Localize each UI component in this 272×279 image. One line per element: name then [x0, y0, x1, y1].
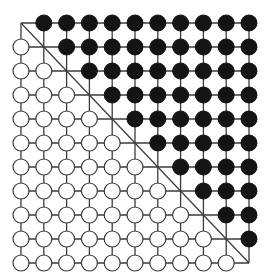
white-node: [13, 183, 29, 199]
black-node: [173, 63, 189, 79]
black-node: [218, 207, 234, 223]
black-node: [150, 63, 166, 79]
white-node: [104, 183, 120, 199]
black-node: [173, 111, 189, 127]
black-node: [104, 63, 120, 79]
black-node: [241, 111, 257, 127]
white-node: [13, 159, 29, 175]
black-node: [218, 159, 234, 175]
white-node: [150, 183, 166, 199]
black-node: [195, 135, 211, 151]
black-node: [241, 231, 257, 247]
white-node: [104, 255, 120, 271]
white-node: [127, 183, 143, 199]
black-node: [241, 159, 257, 175]
white-node: [13, 63, 29, 79]
black-node: [218, 15, 234, 31]
white-node: [81, 135, 97, 151]
black-node: [241, 63, 257, 79]
black-node: [81, 39, 97, 55]
white-node: [13, 87, 29, 103]
white-node: [36, 87, 52, 103]
white-node: [195, 255, 211, 271]
white-node: [127, 207, 143, 223]
black-node: [218, 87, 234, 103]
black-node: [150, 135, 166, 151]
black-node: [241, 87, 257, 103]
white-node: [13, 255, 29, 271]
black-node: [241, 15, 257, 31]
black-node: [59, 15, 75, 31]
white-node: [59, 207, 75, 223]
black-node: [127, 63, 143, 79]
white-node: [36, 159, 52, 175]
black-node: [150, 87, 166, 103]
black-node: [81, 63, 97, 79]
black-node: [173, 87, 189, 103]
black-node: [218, 39, 234, 55]
black-node: [81, 15, 97, 31]
white-node: [150, 255, 166, 271]
black-node: [195, 111, 211, 127]
white-node: [81, 255, 97, 271]
black-node: [104, 39, 120, 55]
black-node: [127, 15, 143, 31]
black-node: [104, 15, 120, 31]
black-node: [195, 15, 211, 31]
white-node: [36, 207, 52, 223]
black-node: [241, 207, 257, 223]
white-node: [36, 183, 52, 199]
black-node: [173, 135, 189, 151]
white-node: [173, 255, 189, 271]
black-node: [195, 39, 211, 55]
black-node: [59, 39, 75, 55]
white-node: [127, 231, 143, 247]
white-node: [104, 231, 120, 247]
white-node: [195, 231, 211, 247]
white-node: [81, 183, 97, 199]
white-node: [36, 111, 52, 127]
white-node: [36, 135, 52, 151]
black-node: [195, 183, 211, 199]
black-node: [173, 15, 189, 31]
black-node: [127, 39, 143, 55]
black-node: [218, 111, 234, 127]
white-node: [81, 231, 97, 247]
white-node: [218, 255, 234, 271]
black-node: [127, 111, 143, 127]
black-node: [241, 39, 257, 55]
black-node: [127, 87, 143, 103]
white-node: [150, 231, 166, 247]
white-node: [150, 207, 166, 223]
black-node: [241, 183, 257, 199]
white-node: [36, 255, 52, 271]
black-node: [173, 39, 189, 55]
white-node: [59, 231, 75, 247]
white-node: [59, 135, 75, 151]
black-node: [241, 135, 257, 151]
black-node: [150, 39, 166, 55]
white-node: [13, 135, 29, 151]
black-node: [218, 135, 234, 151]
white-node: [127, 255, 143, 271]
white-node: [59, 111, 75, 127]
white-node: [13, 39, 29, 55]
white-node: [173, 231, 189, 247]
lattice-diagram: [0, 0, 272, 279]
white-node: [13, 231, 29, 247]
black-node: [195, 63, 211, 79]
white-node: [81, 111, 97, 127]
black-node: [150, 111, 166, 127]
white-node: [81, 159, 97, 175]
white-node: [36, 231, 52, 247]
black-node: [173, 159, 189, 175]
white-node: [173, 207, 189, 223]
white-node: [59, 159, 75, 175]
black-node: [218, 183, 234, 199]
black-node: [218, 63, 234, 79]
white-node: [127, 159, 143, 175]
white-node: [104, 207, 120, 223]
black-node: [150, 15, 166, 31]
white-node: [59, 255, 75, 271]
black-node: [36, 15, 52, 31]
